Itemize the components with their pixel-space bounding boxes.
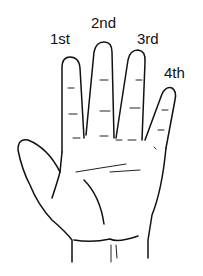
hand-diagram: 1st 2nd 3rd 4th bbox=[0, 0, 203, 276]
label-3rd-finger: 3rd bbox=[137, 30, 159, 47]
wrist-crease bbox=[74, 236, 138, 241]
thumb-base-curve bbox=[84, 180, 104, 224]
little-joint-mark bbox=[154, 147, 156, 149]
heart-line bbox=[76, 164, 126, 172]
little-finger-outline bbox=[145, 88, 176, 148]
middle-finger-outline bbox=[86, 42, 114, 138]
wrist-tendon-line-2 bbox=[116, 245, 117, 258]
palm-creases bbox=[76, 164, 140, 172]
label-4th-finger: 4th bbox=[164, 64, 185, 81]
palm-right-edge bbox=[148, 148, 166, 258]
hand-outline bbox=[18, 42, 176, 262]
head-line bbox=[110, 170, 140, 172]
ring-finger-outline bbox=[116, 50, 145, 140]
thumb-inner-line bbox=[52, 172, 60, 198]
label-1st-finger: 1st bbox=[50, 30, 71, 47]
thumb-outline bbox=[18, 140, 72, 262]
label-2nd-finger: 2nd bbox=[91, 14, 116, 31]
